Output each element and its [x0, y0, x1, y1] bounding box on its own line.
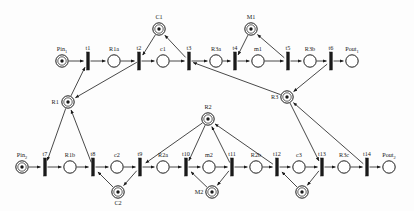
token: [116, 190, 119, 193]
token: [210, 190, 213, 193]
place-label-c1t: c1: [160, 45, 166, 52]
place-R3a[interactable]: [210, 55, 222, 67]
place-label-R3: R3: [271, 93, 278, 100]
transition-label-t9: t9: [138, 150, 143, 157]
transition-t9[interactable]: [139, 158, 142, 176]
transition-t10[interactable]: [185, 158, 188, 176]
place-c3[interactable]: [293, 161, 305, 173]
place-label-M1: M1: [247, 13, 256, 20]
transition-label-t2: t2: [137, 44, 142, 51]
transition-label-t13: t13: [318, 150, 326, 157]
transition-label-t8: t8: [91, 150, 96, 157]
arc-M1-to-t4: [238, 35, 248, 55]
place-R3c[interactable]: [338, 161, 350, 173]
arc-C2-to-t8: [98, 172, 113, 187]
place-label-c2: c2: [114, 151, 120, 158]
place-label-R2a: R2a: [158, 151, 168, 158]
place-label-R1a: R1a: [109, 45, 119, 52]
transition-label-t4: t4: [233, 44, 238, 51]
transition-t8[interactable]: [92, 158, 95, 176]
transition-t5[interactable]: [287, 52, 290, 70]
arc-R3-to-t3: [193, 63, 280, 95]
transition-label-t12: t12: [273, 150, 281, 157]
arc-t13-to-C1b: [307, 171, 319, 185]
place-label-R1b: R1b: [65, 151, 75, 158]
label-layer: Pin1R1ac1R3am1R3bPout1C1M1R1R2R3Pin2R1bc…: [17, 13, 396, 206]
transition-t12[interactable]: [276, 158, 279, 176]
arc-t11-to-M2: [217, 171, 229, 185]
transition-label-t14: t14: [363, 150, 371, 157]
place-label-R3c: R3c: [339, 151, 349, 158]
transition-t13[interactable]: [321, 158, 324, 176]
place-label-R1: R1: [52, 98, 59, 105]
place-label-C1: C1: [155, 13, 162, 20]
place-label-Pout1: Pout1: [345, 45, 359, 54]
transition-t7[interactable]: [44, 158, 47, 176]
arc-C1b-to-t12: [282, 172, 297, 187]
transition-label-t11: t11: [228, 150, 236, 157]
token: [206, 117, 209, 120]
place-label-R2: R2: [204, 103, 211, 110]
token: [300, 190, 303, 193]
transition-label-t10: t10: [182, 150, 190, 157]
transition-t3[interactable]: [188, 52, 191, 70]
transition-t6[interactable]: [330, 52, 333, 70]
transition-label-t6: t6: [329, 44, 334, 51]
petri-net-canvas: Pin1R1ac1R3am1R3bPout1C1M1R1R2R3Pin2R1bc…: [0, 0, 414, 211]
place-label-m1: m1: [254, 45, 262, 52]
arc-t9-to-C2: [124, 171, 137, 186]
arc-t14-to-R3: [293, 103, 363, 164]
token: [66, 100, 69, 103]
place-R1b[interactable]: [64, 161, 76, 173]
place-C1b[interactable]: [296, 186, 308, 198]
place-label-c3: c3: [296, 151, 302, 158]
place-label-Pin2: Pin2: [17, 151, 27, 160]
place-label-R3b: R3b: [305, 45, 315, 52]
place-label-Pin1: Pin1: [57, 45, 67, 54]
place-C2[interactable]: [112, 186, 124, 198]
transition-t4[interactable]: [234, 52, 237, 70]
place-R1[interactable]: [62, 96, 74, 108]
petri-net-diagram: Pin1R1ac1R3am1R3bPout1C1M1R1R2R3Pin2R1bc…: [0, 0, 414, 211]
place-c1t[interactable]: [157, 55, 169, 67]
arc-R3-to-t13: [290, 103, 319, 161]
place-R3b[interactable]: [304, 55, 316, 67]
arc-t6-to-R3: [294, 64, 328, 91]
place-Pin1[interactable]: [56, 55, 68, 67]
arc-M2-to-t10: [191, 172, 207, 187]
place-Pout1[interactable]: [346, 55, 358, 67]
place-R2[interactable]: [202, 113, 214, 125]
place-M2[interactable]: [206, 186, 218, 198]
transition-t2[interactable]: [138, 52, 141, 70]
place-label-m2: m2: [205, 151, 213, 158]
arc-C1-to-t2: [143, 35, 156, 55]
arc-R2-to-t9: [146, 123, 203, 163]
place-R3[interactable]: [281, 91, 293, 103]
transition-t1[interactable]: [87, 52, 90, 70]
transition-label-t1: t1: [86, 44, 91, 51]
token: [285, 95, 288, 98]
place-c2[interactable]: [111, 161, 123, 173]
arc-t12-to-R2: [215, 124, 273, 164]
place-M1[interactable]: [245, 23, 257, 35]
place-label-R2b: R2b: [251, 151, 261, 158]
place-label-R3a: R3a: [211, 45, 221, 52]
transition-label-t3: t3: [187, 44, 192, 51]
arc-R1-to-t1: [71, 67, 85, 96]
token: [60, 59, 63, 62]
place-Pout2[interactable]: [383, 161, 395, 173]
place-R2a[interactable]: [157, 161, 169, 173]
place-R1a[interactable]: [108, 55, 120, 67]
transition-t14[interactable]: [366, 158, 369, 176]
token: [249, 27, 252, 30]
place-m2[interactable]: [203, 161, 215, 173]
place-label-Pout2: Pout2: [382, 151, 396, 160]
token: [20, 165, 23, 168]
transition-label-t7: t7: [43, 150, 48, 157]
place-m1[interactable]: [252, 55, 264, 67]
transition-t11[interactable]: [231, 158, 234, 176]
arc-t3-to-C1: [165, 35, 186, 57]
place-C1[interactable]: [153, 23, 165, 35]
place-R2b[interactable]: [250, 161, 262, 173]
place-Pin2[interactable]: [16, 161, 28, 173]
